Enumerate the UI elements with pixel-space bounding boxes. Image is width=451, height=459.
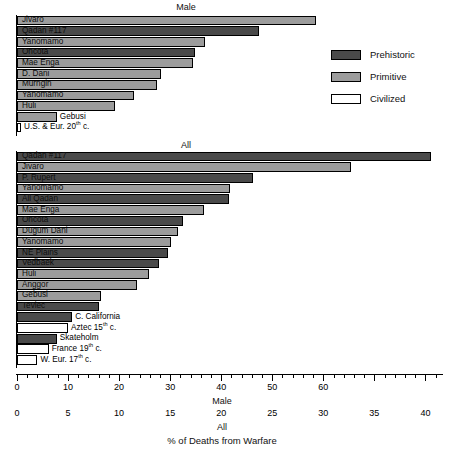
bar-label: France 19th c. [52, 345, 102, 353]
bar [17, 162, 351, 172]
bar [17, 312, 72, 322]
axis-tick [272, 374, 273, 381]
panel-baseline-male [16, 15, 17, 136]
legend-swatch-primitive [331, 72, 361, 82]
axis-tick [364, 374, 365, 378]
bar-label: Huli [22, 270, 36, 278]
axis-tick-label: 50 [267, 382, 277, 392]
bar-label: Skateholm [60, 334, 99, 342]
axis-tick [17, 374, 18, 381]
bar-label: Oncota [22, 216, 48, 224]
axis-tick-label: 0 [14, 382, 19, 392]
axis-tick [78, 374, 79, 378]
bar-label: W. Eur. 17th c. [40, 356, 91, 364]
panel-baseline-all [16, 151, 17, 368]
axis-tick-label: 10 [63, 382, 73, 392]
bar-label: Mae Enga [22, 206, 59, 214]
axis-tick [334, 374, 335, 378]
bar [17, 323, 68, 333]
bar [17, 344, 49, 354]
bar [17, 355, 37, 365]
axis-tick [293, 374, 294, 378]
legend-item-primitive: Primitive [331, 71, 406, 82]
axis-tick [140, 374, 141, 378]
axis-tick [180, 374, 181, 378]
axis-caption: % of Deaths from Warfare [167, 435, 276, 446]
legend-item-prehistoric: Prehistoric [331, 49, 415, 60]
axis-tick [231, 374, 232, 378]
axis-tick [119, 374, 120, 381]
axis-tick-label: 5 [66, 408, 71, 418]
axis-tick-label: 30 [318, 408, 328, 418]
bar-label: Aztec 15th c. [71, 324, 116, 332]
legend-swatch-civilized [331, 94, 361, 104]
axis-tick [252, 374, 253, 378]
legend-label-primitive: Primitive [370, 71, 406, 82]
bar [17, 334, 57, 344]
legend-label-prehistoric: Prehistoric [370, 49, 415, 60]
axis-tick [68, 374, 69, 381]
bar [17, 269, 149, 279]
bar-label: Dugum Dani [22, 227, 68, 235]
axis-tick [109, 374, 110, 378]
axis-spine [16, 374, 443, 375]
axis-tick [170, 374, 171, 381]
axis-tick [221, 374, 222, 381]
axis-tick [160, 374, 161, 378]
axis-tick [415, 374, 416, 378]
axis-tick-label: 35 [369, 408, 379, 418]
axis-tick-label: 40 [420, 408, 430, 418]
axis-tick-label: 30 [165, 382, 175, 392]
axis-tick-label: 25 [267, 408, 277, 418]
axis-tick [262, 374, 263, 378]
axis-tick-label: 20 [114, 382, 124, 392]
axis-tick [191, 374, 192, 378]
axis-tick-label: 0 [14, 408, 19, 418]
axis-tick [425, 374, 426, 381]
axis-tick-label: 60 [318, 382, 328, 392]
axis-tick [37, 374, 38, 378]
axis-tick [385, 374, 386, 378]
bar-label: Vedbaek [22, 259, 54, 267]
axis-tick-label: 20 [216, 408, 226, 418]
axis-tick [242, 374, 243, 378]
axis-tick-label: 15 [165, 408, 175, 418]
axis-tick [282, 374, 283, 378]
bar-label: C. California [75, 313, 120, 321]
axis-tick [344, 374, 345, 378]
bar-label: Anggor [22, 281, 48, 289]
axis-title-male: Male [212, 396, 232, 406]
legend-label-civilized: Civilized [370, 93, 405, 104]
axis-tick-label: 10 [114, 408, 124, 418]
axis-tick [58, 374, 59, 378]
axis-tick [436, 374, 437, 378]
axis-tick [129, 374, 130, 378]
bar-label: P. Rupert [22, 174, 56, 182]
axis-tick [354, 374, 355, 378]
legend-item-civilized: Civilized [331, 93, 405, 104]
axis-tick [88, 374, 89, 378]
axis-tick [313, 374, 314, 378]
warfare-deaths-chart: MaleAllJivaroQadan #117YanomamoOncotaMae… [0, 0, 451, 459]
bar-label: Jivaro [22, 163, 44, 171]
axis-tick [201, 374, 202, 378]
bar [17, 152, 431, 162]
axis-tick [323, 374, 324, 381]
axis-tick [303, 374, 304, 378]
axis-tick [48, 374, 49, 378]
bar-label: Teviec [22, 302, 45, 310]
axis-tick [374, 374, 375, 381]
bar-label: Gebusi [22, 291, 48, 299]
axis-tick [211, 374, 212, 378]
axis-tick [99, 374, 100, 378]
bar-label: Yanomamo [22, 238, 63, 246]
axis-tick [27, 374, 28, 378]
legend-swatch-prehistoric [331, 50, 361, 60]
legend: PrehistoricPrimitiveCivilized [331, 49, 446, 113]
axis-tick-label: 40 [216, 382, 226, 392]
axis-tick [395, 374, 396, 378]
bar-label: All Qadan [22, 195, 58, 203]
axis-tick [405, 374, 406, 378]
bar-label: NE Plains [22, 249, 58, 257]
axis-tick [150, 374, 151, 378]
